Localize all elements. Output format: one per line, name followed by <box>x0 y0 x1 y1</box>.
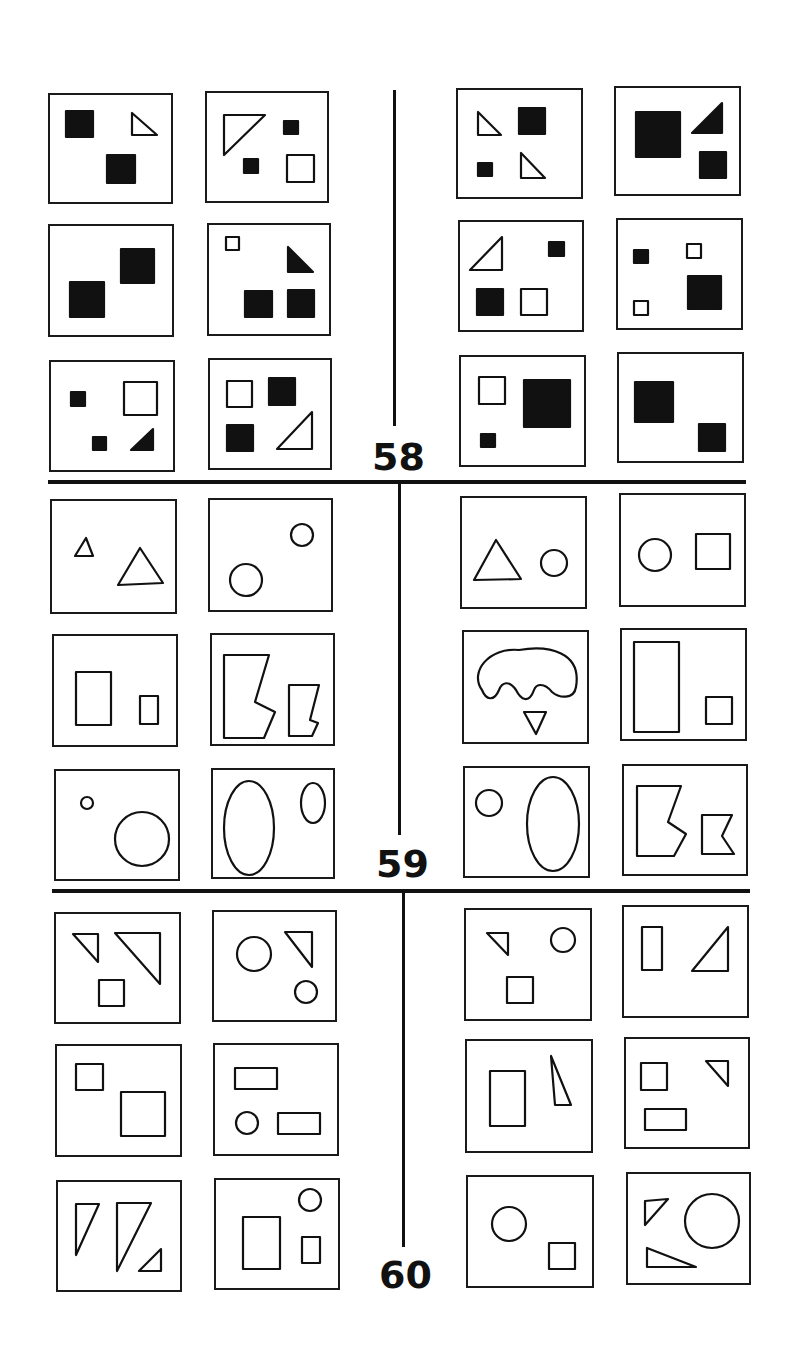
polygon-shape-outline <box>224 115 265 155</box>
polygon-shape-outline <box>478 112 501 135</box>
figure-box-right <box>626 1172 751 1285</box>
square-shape-outline <box>507 977 533 1003</box>
figure-box-right <box>619 493 746 607</box>
polygon-shape-outline <box>115 933 160 984</box>
problem-number: 59 <box>376 845 429 883</box>
square-shape-filled <box>284 121 298 134</box>
square-shape-filled <box>93 437 106 450</box>
square-shape-outline <box>490 1071 525 1126</box>
square-shape-outline <box>76 672 111 725</box>
square-shape-filled <box>519 108 545 134</box>
figure-canvas: 585960 <box>0 0 798 1359</box>
polygon-shape-outline <box>474 540 521 580</box>
figure-box-right <box>616 218 743 330</box>
square-shape-filled <box>700 152 726 178</box>
square-shape-outline <box>121 1092 165 1136</box>
square-shape-filled <box>478 163 492 176</box>
square-shape-filled <box>524 380 570 427</box>
polygon-shape-outline <box>118 548 163 585</box>
figure-box-left <box>54 912 181 1024</box>
ellipse-shape-outline <box>224 781 274 875</box>
polygon-shape-outline <box>75 538 93 556</box>
figure-box-left <box>212 910 337 1022</box>
square-shape-outline <box>99 980 124 1006</box>
figure-box-left <box>208 358 332 470</box>
circle-shape-outline <box>295 981 317 1003</box>
problem-number: 60 <box>379 1256 432 1294</box>
square-shape-outline <box>641 1063 667 1090</box>
square-shape-outline <box>549 1243 575 1269</box>
circle-shape-outline <box>236 1112 258 1134</box>
polygon-shape-outline <box>645 1199 668 1225</box>
square-shape-outline <box>140 696 158 724</box>
figure-box-right <box>465 1039 593 1153</box>
section-separator <box>52 889 750 893</box>
circle-shape-outline <box>639 539 671 571</box>
square-shape-filled <box>549 242 564 256</box>
polygon-shape-outline <box>702 815 734 854</box>
circle-shape-outline <box>81 797 93 809</box>
square-shape-filled <box>288 290 314 317</box>
square-shape-filled <box>227 425 253 451</box>
figure-box-left <box>48 93 173 204</box>
polygon-shape-outline <box>132 113 157 135</box>
square-shape-outline <box>287 155 314 182</box>
figure-box-left <box>213 1043 339 1156</box>
square-shape-outline <box>521 289 547 315</box>
figure-box-right <box>620 628 747 741</box>
figure-box-left <box>50 499 177 614</box>
figure-box-right <box>617 352 744 463</box>
polygon-shape-outline <box>470 237 502 270</box>
square-shape-outline <box>634 301 648 315</box>
figure-box-right <box>458 220 584 332</box>
figure-box-right <box>464 908 592 1021</box>
figure-box-left <box>210 633 335 746</box>
polygon-shape-outline <box>289 685 319 736</box>
circle-shape-outline <box>492 1207 526 1241</box>
square-shape-outline <box>76 1064 103 1090</box>
figure-box-left <box>52 634 178 747</box>
square-shape-filled <box>635 382 673 422</box>
vertical-divider <box>398 484 401 835</box>
circle-shape-outline <box>299 1189 321 1211</box>
square-shape-filled <box>66 111 93 137</box>
square-shape-filled <box>245 291 272 317</box>
square-shape-outline <box>302 1237 320 1263</box>
polygon-shape-filled <box>692 103 722 133</box>
ellipse-shape-outline <box>301 783 325 823</box>
circle-shape-outline <box>291 524 313 546</box>
square-shape-filled <box>481 434 495 447</box>
polygon-shape-outline <box>285 932 312 967</box>
square-shape-outline <box>634 642 679 732</box>
square-shape-filled <box>634 250 648 263</box>
square-shape-outline <box>706 697 732 724</box>
figure-box-right <box>466 1175 594 1288</box>
figure-box-left <box>54 769 180 881</box>
square-shape-outline <box>687 244 701 258</box>
polygon-shape-outline <box>647 1248 696 1267</box>
square-shape-outline <box>124 382 157 415</box>
circle-shape-outline <box>685 1194 739 1248</box>
polygon-shape-outline <box>487 933 508 955</box>
circle-shape-outline <box>541 550 567 576</box>
figure-box-right <box>463 766 590 878</box>
square-shape-filled <box>477 289 503 315</box>
figure-box-left <box>56 1180 182 1292</box>
polygon-shape-outline <box>73 934 98 962</box>
circle-shape-outline <box>230 564 262 596</box>
square-shape-filled <box>70 282 104 317</box>
polygon-shape-outline <box>551 1056 571 1105</box>
vertical-divider <box>393 90 396 426</box>
polygon-shape-outline <box>521 153 545 178</box>
polygon-shape-filled <box>131 429 153 450</box>
figure-box-right <box>460 496 587 609</box>
circle-shape-outline <box>237 937 271 971</box>
ellipse-shape-outline <box>527 777 579 871</box>
figure-box-left <box>205 91 329 203</box>
square-shape-filled <box>688 276 721 309</box>
figure-box-left <box>48 224 174 337</box>
square-shape-outline <box>479 377 505 404</box>
polygon-shape-outline <box>224 655 275 738</box>
square-shape-outline <box>235 1068 277 1089</box>
figure-box-right <box>614 86 741 196</box>
